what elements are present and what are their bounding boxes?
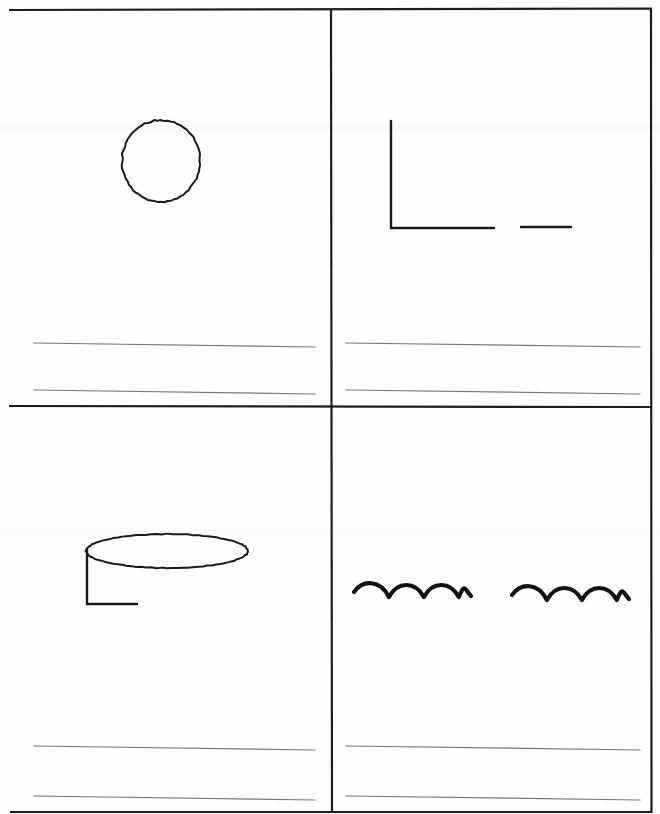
vertical-divider xyxy=(331,10,332,812)
scan-band-lower xyxy=(0,528,660,536)
scan-band-upper xyxy=(0,124,660,132)
worksheet-canvas xyxy=(0,0,660,814)
horizontal-divider xyxy=(9,406,651,407)
worksheet-page xyxy=(0,0,660,814)
